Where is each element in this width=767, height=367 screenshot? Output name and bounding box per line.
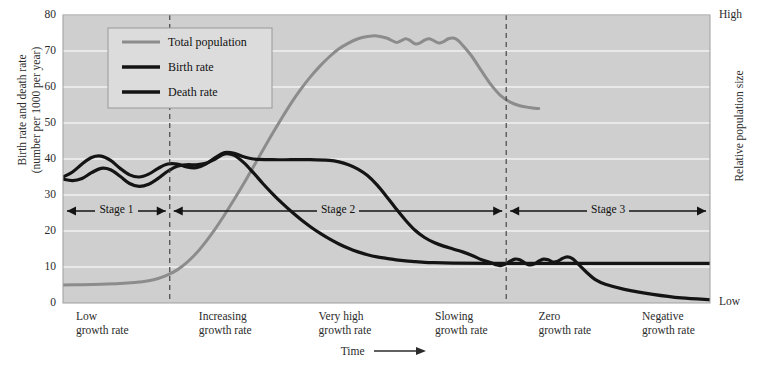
stage-label-1: Stage 1 [95, 203, 137, 215]
x-axis-category-3-line2: growth rate [319, 323, 372, 337]
stage-label-2: Stage 2 [317, 203, 359, 215]
x-axis-category-1: Lowgrowth rate [76, 309, 129, 337]
x-axis-category-5-line2: growth rate [539, 323, 592, 337]
x-axis-category-2: Increasinggrowth rate [199, 309, 252, 337]
x-axis-category-1-line2: growth rate [76, 323, 129, 337]
x-axis-category-4: Slowinggrowth rate [435, 309, 488, 337]
x-axis-category-6-line2: growth rate [642, 323, 695, 337]
x-axis-category-2-line1: Increasing [199, 309, 252, 323]
x-axis-category-1-line1: Low [76, 309, 129, 323]
x-axis-category-6: Negativegrowth rate [642, 309, 695, 337]
x-axis-category-2-line2: growth rate [199, 323, 252, 337]
legend-label-total-population: Total population [168, 35, 247, 50]
x-axis-title: Time [0, 344, 767, 357]
x-axis-category-5-line1: Zero [539, 309, 592, 323]
legend-label-birth-rate: Birth rate [168, 60, 214, 75]
stage-label-3: Stage 3 [587, 203, 629, 215]
x-axis-title-text: Time [341, 345, 365, 357]
time-arrow-icon [374, 346, 426, 356]
x-axis-category-5: Zerogrowth rate [539, 309, 592, 337]
x-axis-category-4-line2: growth rate [435, 323, 488, 337]
demographic-transition-chart: 01020304050607080 Birth rate and death r… [0, 0, 767, 367]
x-axis-category-3-line1: Very high [319, 309, 372, 323]
x-axis-category-3: Very highgrowth rate [319, 309, 372, 337]
legend-label-death-rate: Death rate [168, 85, 218, 100]
x-axis-category-4-line1: Slowing [435, 309, 488, 323]
x-axis-category-6-line1: Negative [642, 309, 695, 323]
